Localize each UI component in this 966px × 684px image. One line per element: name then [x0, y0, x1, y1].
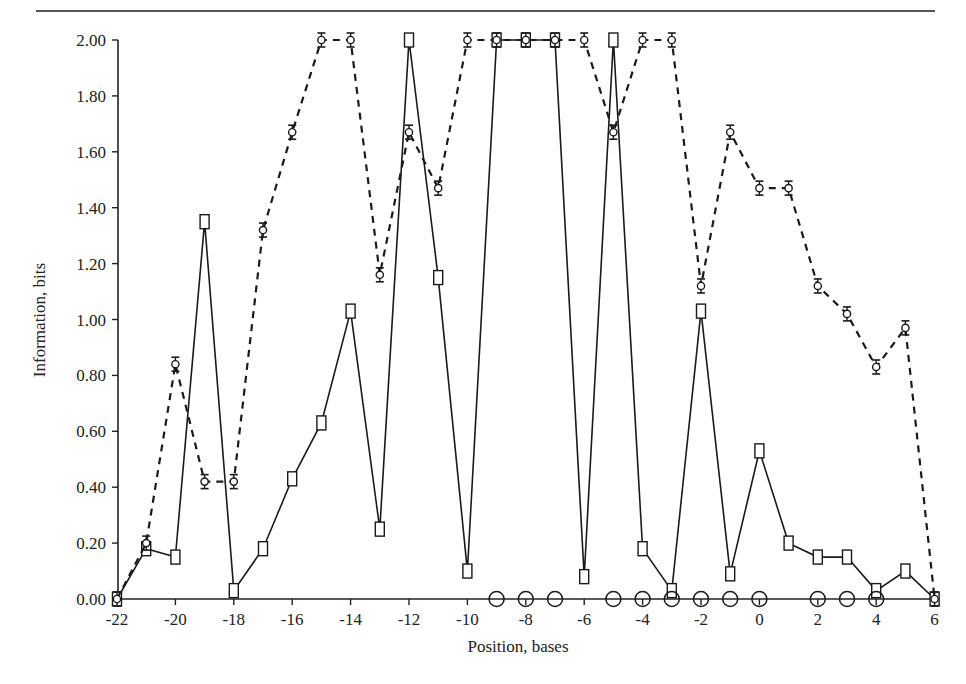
- x-tick-label: -14: [339, 610, 362, 629]
- square-marker: [229, 584, 238, 598]
- x-tick-label: -22: [106, 610, 129, 629]
- square-marker: [609, 33, 618, 47]
- series-layer: [113, 33, 940, 607]
- square-marker: [463, 564, 472, 578]
- dashed-line: [117, 40, 935, 599]
- circle-errorbar-marker: [376, 268, 384, 282]
- x-axis-title: Position, bases: [467, 637, 568, 656]
- square-marker: [259, 542, 268, 556]
- x-tick-label: -20: [164, 610, 187, 629]
- square-marker: [638, 542, 647, 556]
- series-small-circle-errorbar: [113, 33, 939, 606]
- y-tick-label: 2.00: [76, 31, 106, 50]
- square-marker: [813, 550, 822, 564]
- y-axis-title: Information, bits: [30, 263, 49, 377]
- circle-errorbar-marker: [668, 33, 676, 47]
- information-content-chart: 0.000.200.400.600.801.001.201.401.601.80…: [0, 0, 966, 684]
- square-marker: [755, 444, 764, 458]
- circle-errorbar-marker: [171, 357, 179, 371]
- square-marker: [434, 271, 443, 285]
- x-tick-label: -10: [456, 610, 479, 629]
- x-tick-label: 0: [755, 610, 764, 629]
- square-marker: [346, 304, 355, 318]
- circle-errorbar-marker: [201, 475, 209, 489]
- circle-errorbar-marker: [843, 307, 851, 321]
- square-marker: [784, 536, 793, 550]
- square-marker: [901, 564, 910, 578]
- x-tick-label: -4: [636, 610, 651, 629]
- circle-errorbar-marker: [580, 33, 588, 47]
- square-marker: [200, 215, 209, 229]
- square-marker: [667, 584, 676, 598]
- x-tick-label: -2: [694, 610, 708, 629]
- circle-errorbar-marker: [755, 181, 763, 195]
- square-marker: [317, 416, 326, 430]
- x-tick-label: -6: [577, 610, 591, 629]
- square-marker: [288, 472, 297, 486]
- y-tick-label: 1.00: [76, 311, 106, 330]
- square-marker: [697, 304, 706, 318]
- x-tick-label: 2: [814, 610, 823, 629]
- circle-errorbar-marker: [288, 125, 296, 139]
- solid-line: [117, 40, 935, 599]
- y-tick-label: 1.60: [76, 143, 106, 162]
- x-tick-label: 4: [872, 610, 881, 629]
- axes: 0.000.200.400.600.801.001.201.401.601.80…: [76, 31, 939, 629]
- y-tick-label: 0.40: [76, 478, 106, 497]
- x-tick-label: -18: [222, 610, 245, 629]
- circle-errorbar-marker: [872, 360, 880, 374]
- y-tick-label: 0.20: [76, 534, 106, 553]
- chart-canvas: 0.000.200.400.600.801.001.201.401.601.80…: [0, 0, 966, 684]
- square-marker: [843, 550, 852, 564]
- circle-errorbar-marker: [726, 125, 734, 139]
- y-tick-label: 0.80: [76, 366, 106, 385]
- square-marker: [171, 550, 180, 564]
- y-tick-label: 1.40: [76, 199, 106, 218]
- x-tick-label: -8: [519, 610, 533, 629]
- x-tick-label: -16: [281, 610, 304, 629]
- circle-errorbar-marker: [814, 279, 822, 293]
- square-marker: [726, 567, 735, 581]
- y-tick-label: 1.80: [76, 87, 106, 106]
- series-square: [113, 33, 940, 606]
- circle-errorbar-marker: [785, 181, 793, 195]
- y-tick-label: 0.60: [76, 422, 106, 441]
- square-marker: [405, 33, 414, 47]
- circle-errorbar-marker: [230, 475, 238, 489]
- x-tick-label: 6: [930, 610, 939, 629]
- circle-errorbar-marker: [639, 33, 647, 47]
- y-tick-label: 1.20: [76, 255, 106, 274]
- circle-errorbar-marker: [463, 33, 471, 47]
- x-tick-label: -12: [398, 610, 421, 629]
- circle-errorbar-marker: [347, 33, 355, 47]
- y-tick-label: 0.00: [76, 590, 106, 609]
- circle-errorbar-marker: [259, 223, 267, 237]
- square-marker: [872, 584, 881, 598]
- square-marker: [375, 522, 384, 536]
- circle-errorbar-marker: [609, 125, 617, 139]
- circle-errorbar-marker: [317, 33, 325, 47]
- square-marker: [580, 570, 589, 584]
- circle-errorbar-marker: [697, 279, 705, 293]
